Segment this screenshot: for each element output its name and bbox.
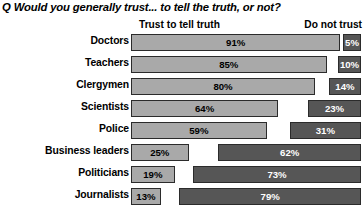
bar-value-trust: 80% [213,82,232,92]
category-label: Scientists [81,101,129,112]
legend-label-trust: Trust to tell truth [139,19,220,30]
chart-row: Business leaders25%62% [0,143,364,165]
chart-row: Doctors91%5% [0,33,364,55]
bar-value-distrust: 14% [335,82,354,92]
chart-row: Police59%31% [0,121,364,143]
chart-row: Teachers85%10% [0,55,364,77]
bar-value-trust: 85% [219,60,238,70]
bar-distrust: 62% [218,144,361,161]
bar-value-distrust: 10% [340,60,359,70]
bar-distrust: 5% [343,34,361,51]
bar-distrust: 73% [193,166,361,183]
bar-trust: 85% [131,56,327,73]
category-label: Journalists [75,189,129,200]
bar-trust: 25% [131,144,189,161]
bar-value-distrust: 73% [267,170,286,180]
bar-value-distrust: 62% [280,148,299,158]
category-label: Politicians [78,167,129,178]
trust-bar-chart: Q Would you generally trust... to tell t… [0,0,364,218]
bar-trust: 59% [131,122,267,139]
category-label: Police [99,123,129,134]
chart-legend: Trust to tell truth Do not trust [0,19,364,32]
chart-row: Clergymen80%14% [0,77,364,99]
chart-row: Politicians19%73% [0,165,364,187]
category-label: Teachers [85,57,129,68]
bar-value-trust: 59% [189,126,208,136]
legend-label-distrust: Do not trust [304,19,362,30]
bar-value-trust: 19% [143,170,162,180]
category-label: Business leaders [45,145,129,156]
bar-value-trust: 25% [150,148,169,158]
bar-value-trust: 91% [226,38,245,48]
bar-value-distrust: 31% [316,126,335,136]
bar-trust: 13% [131,188,161,205]
chart-rows: Doctors91%5%Teachers85%10%Clergymen80%14… [0,33,364,209]
bar-trust: 91% [131,34,340,51]
bar-trust: 80% [131,78,315,95]
bar-trust: 19% [131,166,175,183]
category-label: Doctors [90,35,129,46]
category-label: Clergymen [76,79,129,90]
bar-trust: 64% [131,100,278,117]
bar-distrust: 31% [290,122,361,139]
bar-distrust: 10% [338,56,361,73]
bar-value-distrust: 79% [261,192,280,202]
chart-title: Q Would you generally trust... to tell t… [2,1,281,13]
chart-row: Journalists13%79% [0,187,364,209]
chart-row: Scientists64%23% [0,99,364,121]
bar-value-trust: 13% [136,192,155,202]
bar-value-distrust: 5% [345,38,359,48]
bar-value-distrust: 23% [325,104,344,114]
bar-distrust: 14% [329,78,361,95]
bar-distrust: 23% [308,100,361,117]
bar-value-trust: 64% [195,104,214,114]
bar-distrust: 79% [179,188,361,205]
